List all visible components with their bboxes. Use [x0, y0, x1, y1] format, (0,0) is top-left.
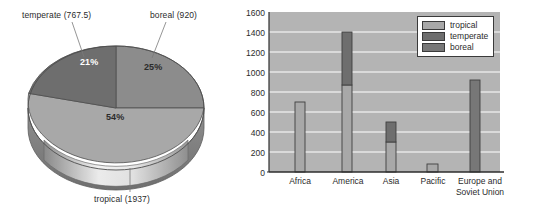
y-tick-0: 0: [239, 168, 265, 178]
legend-label-tropical: tropical: [450, 20, 477, 31]
bar-chart-panel: area (million ha) 1600 1400 1200 1000 80…: [267, 0, 534, 216]
pie-chart-graphic: [0, 0, 267, 216]
bar-segment-pacific-tropical: [427, 164, 438, 172]
bar-group-america: [342, 32, 352, 172]
legend-swatch-tropical: [422, 21, 445, 30]
bar-segment-america-temperate: [342, 32, 352, 85]
bar-segment-africa-tropical: [295, 102, 305, 172]
bar-segment-asia-temperate: [386, 122, 396, 142]
pie-callout-tropical: tropical (1937): [94, 194, 150, 204]
bar-group-pacific: [427, 164, 438, 172]
legend-item-boreal: boreal: [422, 42, 488, 53]
pie-slice-boreal: [116, 46, 204, 108]
legend-item-tropical: tropical: [422, 20, 488, 31]
figure-root: 21% 25% 54% temperate (767.5) boreal (92…: [0, 0, 534, 216]
pie-callout-temperate: temperate (767.5): [22, 10, 91, 20]
legend-swatch-temperate: [422, 32, 445, 41]
y-tick-1600: 1600: [239, 8, 265, 18]
bar-segment-asia-tropical: [386, 142, 396, 172]
y-tick-1000: 1000: [239, 68, 265, 78]
bar-segment-europe-boreal: [470, 80, 480, 172]
y-tick-1200: 1200: [239, 48, 265, 58]
bar-group-europe: [470, 80, 480, 172]
pie-callout-boreal: boreal (920): [150, 10, 197, 20]
legend-label-temperate: temperate: [450, 31, 488, 42]
x-tick-europe-line1: Europe and: [446, 176, 514, 186]
bar-group-africa: [295, 102, 305, 172]
x-tick-africa: Africa: [277, 176, 323, 186]
legend-swatch-boreal: [422, 43, 445, 52]
bar-group-asia: [386, 122, 396, 172]
y-tick-200: 200: [239, 148, 265, 158]
y-tick-400: 400: [239, 128, 265, 138]
pie-chart-panel: 21% 25% 54% temperate (767.5) boreal (92…: [0, 0, 267, 216]
chart-legend: tropical temperate boreal: [417, 16, 494, 57]
y-tick-800: 800: [239, 88, 265, 98]
pie-percent-boreal: 25%: [144, 62, 162, 72]
x-tick-europe-line2: Soviet Union: [446, 187, 514, 197]
pie-percent-tropical: 54%: [106, 112, 124, 122]
legend-label-boreal: boreal: [450, 42, 474, 53]
y-tick-600: 600: [239, 108, 265, 118]
pie-percent-temperate: 21%: [80, 57, 98, 67]
bar-segment-america-tropical: [342, 85, 352, 172]
leader-line-boreal: [152, 22, 166, 58]
y-tick-1400: 1400: [239, 28, 265, 38]
legend-item-temperate: temperate: [422, 31, 488, 42]
x-tick-asia: Asia: [370, 176, 412, 186]
x-tick-america: America: [322, 176, 374, 186]
